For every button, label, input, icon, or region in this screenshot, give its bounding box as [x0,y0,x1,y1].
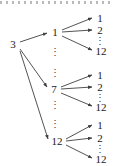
figure-canvas: 3 1 7 12 ⋮ ⋮ ⋮ ⋮ 1 2 ⋮ 12 1 2 ⋮ 12 1 2 ⋮… [0,0,113,166]
leaf-g7-12: 12 [96,102,107,113]
edges-from-node-1 [62,18,92,50]
edge-node1-to-12 [62,36,92,50]
edge-node12-to-12 [66,145,92,158]
edge-node7-to-12 [61,93,92,106]
node-level1-7: 7 [51,84,57,95]
leaf-g1-12: 12 [96,46,107,57]
edge-node1-to-1 [62,18,92,30]
leaf-g12-2: 2 [97,133,103,144]
edges-from-node-12 [66,125,92,158]
leaf-g1-2: 2 [97,25,103,36]
node-level1-12: 12 [52,136,63,147]
leaf-g12-12: 12 [96,154,107,165]
column-ellipsis-1: ⋮ [50,47,60,57]
node-root: 3 [10,39,16,50]
leaf-g1-1: 1 [97,13,103,24]
edge-root-to-1 [20,33,47,42]
leaf-g12-1: 1 [97,120,103,131]
edge-node12-to-2 [66,138,92,141]
edge-node1-to-2 [62,30,92,32]
edge-node7-to-1 [61,75,92,87]
edge-root-to-12 [20,51,48,139]
edge-root-to-7 [20,49,47,87]
column-ellipsis-2: ⋮ [50,68,60,78]
edge-node7-to-2 [61,87,92,89]
column-ellipsis-4: ⋮ [50,119,60,129]
edge-node12-to-1 [66,125,92,139]
edges-from-node-7 [61,75,92,106]
leaf-g7-2: 2 [97,82,103,93]
leaf-g7-1: 1 [97,70,103,81]
node-level1-1: 1 [52,27,58,38]
edges-from-root [20,33,48,139]
column-ellipsis-3: ⋮ [50,100,60,110]
